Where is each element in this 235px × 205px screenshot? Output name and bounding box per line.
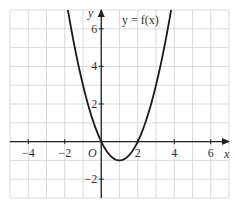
curve-label: y = f(x) [122,13,159,27]
y-tick-label: 2 [91,97,97,111]
x-tick-label: −4 [22,146,35,160]
function-graph: −4−2246−2246 y = f(x) x y O [0,0,235,205]
x-tick-label: −2 [58,146,71,160]
origin-label: O [88,146,97,160]
grid [10,10,229,198]
x-tick-label: 4 [171,146,177,160]
y-tick-label: 4 [91,59,97,73]
x-tick-label: 6 [208,146,214,160]
y-tick-label: −2 [84,172,97,186]
x-tick-label: 2 [135,146,141,160]
axes [10,9,230,198]
y-tick-label: 6 [91,22,97,36]
x-axis-label: x [223,147,230,161]
y-axis-label: y [87,6,94,20]
